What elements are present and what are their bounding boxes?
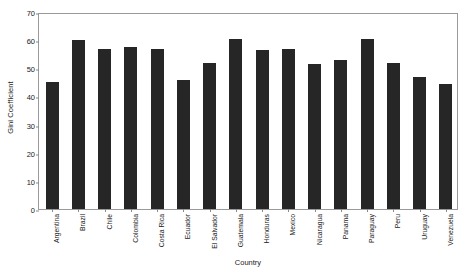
x-axis-label-costa-rica: Costa Rica [159,214,166,247]
x-tick-mark [183,209,184,212]
bar [308,64,321,209]
bar-slot [92,14,118,209]
x-tick-mark [52,209,53,212]
bar [72,40,85,209]
y-axis-title: Gini Coefficient [0,0,20,215]
x-axis-label-uruguay: Uruguay [422,214,429,240]
x-axis-label-guatemala: Guatemala [238,214,245,247]
bar [229,39,242,209]
x-axis-label-honduras: Honduras [264,214,271,243]
x-tick-mark [78,209,79,212]
bar-slot [170,14,196,209]
x-tick-mark [341,209,342,212]
bar [413,77,426,209]
y-axis-title-text: Gini Coefficient [6,81,15,133]
x-axis-label-chile: Chile [107,214,114,230]
x-axis-category-labels: ArgentinaBrazilChileColombiaCosta RicaEc… [38,214,458,258]
bar [282,49,295,209]
x-tick-mark [315,209,316,212]
x-axis-title: Country [38,258,458,267]
x-tick-mark [367,209,368,212]
bar [177,80,190,209]
bar-slot [275,14,301,209]
bar-slot [39,14,65,209]
x-axis-label-ecuador: Ecuador [185,214,192,239]
bar [203,63,216,209]
x-tick-mark [105,209,106,212]
x-tick-mark [262,209,263,212]
x-axis-label-brazil: Brazil [80,214,87,231]
bar-slot [407,14,433,209]
bar-slot [249,14,275,209]
bar-slot [223,14,249,209]
bar-slot [197,14,223,209]
bar [361,39,374,209]
bar [387,63,400,209]
bar-slot [65,14,91,209]
bar-slot [354,14,380,209]
bar [151,49,164,209]
bars-layer [39,14,457,209]
x-tick-mark [157,209,158,212]
x-tick-mark [236,209,237,212]
bar-slot [118,14,144,209]
x-axis-label-colombia: Colombia [133,214,140,243]
x-axis-label-nicaragua: Nicaragua [317,214,324,245]
x-tick-mark [420,209,421,212]
x-tick-mark [210,209,211,212]
bar-slot [328,14,354,209]
x-tick-mark [288,209,289,212]
x-axis-label-el-salvador: El Salvador [212,214,219,249]
x-axis-label-mexico: Mexico [290,214,297,236]
bar [98,49,111,209]
x-tick-mark [446,209,447,212]
bar-slot [380,14,406,209]
x-tick-mark [393,209,394,212]
x-axis-label-panama: Panama [343,214,350,239]
bar-slot [302,14,328,209]
bar-slot [144,14,170,209]
bar [439,84,452,209]
gini-coefficient-bar-chart: Gini Coefficient 010203040506070 Argenti… [0,0,467,272]
x-axis-label-paraguay: Paraguay [369,214,376,243]
plot-area: 010203040506070 [38,13,458,210]
x-axis-label-venezuela: Venezuela [448,214,455,246]
bar [334,60,347,209]
y-tick-mark-0 [36,211,39,212]
x-axis-label-argentina: Argentina [54,214,61,243]
x-axis-label-peru: Peru [395,214,402,228]
bar [124,47,137,209]
bar [256,50,269,209]
bar [46,82,59,209]
x-tick-mark [131,209,132,212]
bar-slot [433,14,459,209]
